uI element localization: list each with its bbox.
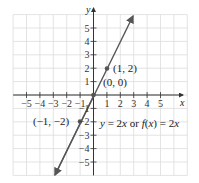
svg-text:−5: −5 — [21, 98, 32, 109]
svg-text:−4: −4 — [79, 143, 90, 154]
point-label-0-0: (0, 0) — [103, 77, 127, 88]
svg-text:5: 5 — [85, 23, 90, 34]
point-label-1-2: (1, 2) — [113, 63, 137, 74]
svg-text:−1: −1 — [79, 103, 90, 114]
svg-text:4: 4 — [85, 36, 90, 47]
svg-text:2: 2 — [85, 63, 90, 74]
x-axis-label: x — [180, 98, 184, 108]
svg-text:−4: −4 — [35, 98, 46, 109]
svg-text:3: 3 — [131, 98, 136, 109]
y-axis-label: y — [86, 5, 90, 15]
svg-text:5: 5 — [158, 98, 163, 109]
svg-text:1: 1 — [85, 76, 90, 87]
svg-text:−3: −3 — [48, 98, 59, 109]
svg-text:−2: −2 — [79, 116, 90, 127]
svg-text:2: 2 — [118, 98, 123, 109]
point-1-2 — [105, 66, 110, 71]
svg-text:−5: −5 — [79, 157, 90, 168]
graph: −5−4−3−2−112345−5−4−3−2−112345 — [0, 0, 199, 183]
svg-text:3: 3 — [85, 49, 90, 60]
svg-text:4: 4 — [145, 98, 150, 109]
axes — [13, 8, 183, 175]
svg-text:1: 1 — [104, 98, 109, 109]
svg-text:−3: −3 — [79, 130, 90, 141]
equation-label: y = 2x or f(x) = 2x — [100, 118, 179, 129]
point-label-m1-m2: (−1, −2) — [33, 116, 69, 127]
point-0-0 — [91, 93, 96, 98]
svg-text:−2: −2 — [61, 98, 72, 109]
